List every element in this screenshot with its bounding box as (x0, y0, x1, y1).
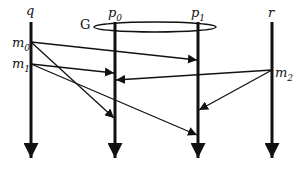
message-label-m2: m2 (275, 66, 293, 83)
m1-to-p0-arrow (31, 64, 114, 73)
process-label-r: r (268, 6, 274, 19)
message-label-m0: m0 (12, 36, 30, 53)
process-label-q: q (26, 4, 34, 17)
group-label: G (80, 18, 90, 31)
process-label-p0: p0 (108, 6, 122, 23)
process-label-p1: p1 (191, 6, 205, 23)
m2-to-p0-arrow (116, 70, 272, 80)
message-diagram: q G p0 p1 r m0 m1 m2 (0, 0, 301, 176)
m0-to-p0-arrow (31, 42, 114, 118)
message-label-m1: m1 (12, 57, 30, 74)
diagram-graphics (0, 0, 301, 176)
m2-to-p1-arrow (199, 70, 272, 110)
